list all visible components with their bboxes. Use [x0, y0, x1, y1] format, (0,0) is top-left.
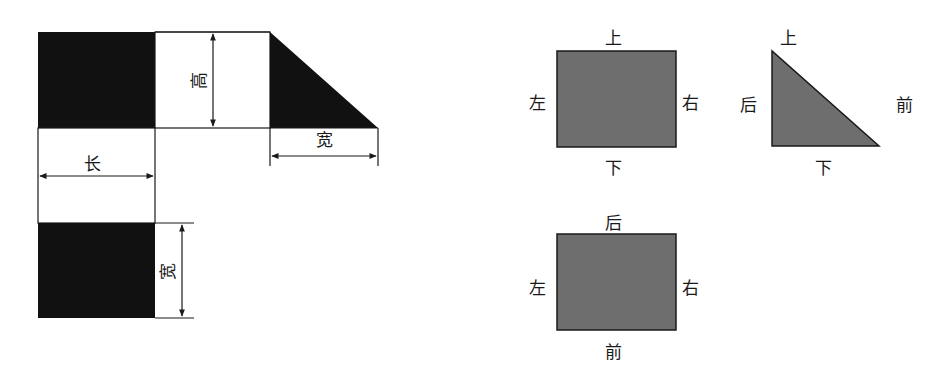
front-view-rect: [557, 51, 676, 147]
top-view-label-bottom: 前: [605, 342, 622, 362]
width-dimension-top: 宽: [270, 128, 378, 166]
front-view-label-right: 右: [682, 93, 699, 113]
length-label: 长: [84, 154, 101, 174]
side-view-label-left: 后: [740, 95, 757, 115]
side-view: 上 后 前 下: [740, 28, 913, 178]
side-view-label-bottom: 下: [815, 158, 832, 178]
front-view-label-top: 上: [605, 28, 622, 48]
side-view-triangle: [772, 51, 879, 146]
top-view-label-left: 左: [529, 278, 546, 298]
diagram-canvas: 高 宽 长 宽 上 左 右 下 上 后: [0, 0, 949, 375]
top-view: 后 左 右 前: [529, 213, 699, 362]
net-black-face-bottom-left: [38, 223, 155, 318]
width-label-bottom: 宽: [158, 263, 178, 280]
front-view-label-bottom: 下: [605, 158, 622, 178]
top-view-label-right: 右: [682, 278, 699, 298]
height-label: 高: [189, 72, 209, 89]
width-dimension-bottom: 宽: [155, 223, 194, 318]
side-view-label-right: 前: [896, 95, 913, 115]
width-label-top: 宽: [316, 130, 333, 150]
front-view-label-left: 左: [529, 93, 546, 113]
net-black-triangle-face: [270, 32, 378, 128]
top-view-rect: [557, 234, 676, 330]
front-view: 上 左 右 下: [529, 28, 699, 178]
top-view-label-top: 后: [605, 213, 622, 233]
net-diagram: 高 宽 长 宽: [38, 32, 378, 318]
net-black-face-top-left: [38, 32, 155, 128]
side-view-label-top: 上: [780, 28, 797, 48]
